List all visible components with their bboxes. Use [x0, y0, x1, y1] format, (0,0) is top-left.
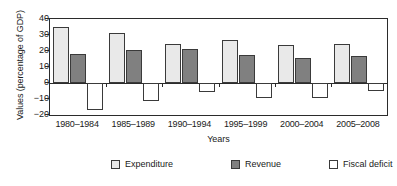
bar-fiscal-deficit	[143, 83, 159, 101]
bar-fiscal-deficit	[87, 83, 103, 110]
plot-area	[49, 18, 388, 116]
x-axis-tick-label: 1980–1984	[49, 118, 105, 130]
bar-chart-figure: Values (percentage of GDP) 403020100−10−…	[0, 0, 397, 186]
legend-label: Expenditure	[125, 159, 173, 170]
bar-revenue	[295, 58, 311, 83]
x-axis-tick-mark	[106, 83, 107, 87]
bar-revenue	[126, 50, 142, 83]
legend-label: Fiscal deficit	[343, 159, 393, 170]
x-axis-tick-label: 1995–1999	[218, 118, 274, 130]
bar-expenditure	[278, 45, 294, 83]
plot-inner	[50, 19, 387, 115]
bar-expenditure	[334, 44, 350, 83]
x-axis-tick-label: 1990–1994	[161, 118, 217, 130]
bar-revenue	[351, 56, 367, 83]
x-axis-tick-label: 1985–1989	[105, 118, 161, 130]
bar-revenue	[70, 54, 86, 83]
bar-expenditure	[165, 44, 181, 83]
legend-label: Revenue	[245, 159, 281, 170]
bar-revenue	[182, 49, 198, 83]
bar-expenditure	[53, 27, 69, 83]
bar-fiscal-deficit	[199, 83, 215, 92]
bar-fiscal-deficit	[256, 83, 272, 98]
bar-fiscal-deficit	[312, 83, 328, 98]
y-axis-ticks: 403020100−10−20	[18, 18, 49, 116]
bar-revenue	[239, 55, 255, 83]
x-axis-title: Years	[49, 133, 388, 145]
bar-expenditure	[109, 33, 125, 83]
bar-expenditure	[222, 40, 238, 83]
legend-swatch-icon	[329, 160, 338, 169]
x-axis-tick-label: 2000–2004	[274, 118, 330, 130]
x-axis-tick-mark	[162, 83, 163, 87]
x-axis-tick-label: 2005–2008	[330, 118, 386, 130]
x-axis-tick-mark	[331, 83, 332, 87]
legend-swatch-icon	[111, 160, 120, 169]
legend-item-expenditure[interactable]: Expenditure	[111, 157, 173, 171]
legend-item-revenue[interactable]: Revenue	[231, 157, 281, 171]
legend-swatch-icon	[231, 160, 240, 169]
chart-legend: ExpenditureRevenueFiscal deficit	[49, 157, 388, 175]
legend-item-fiscal-deficit[interactable]: Fiscal deficit	[329, 157, 393, 171]
x-axis-tick-mark	[275, 83, 276, 87]
bar-fiscal-deficit	[368, 83, 384, 91]
x-axis-tick-mark	[219, 83, 220, 87]
x-axis-tick-labels: 1980–19841985–19891990–19941995–19992000…	[49, 118, 388, 131]
